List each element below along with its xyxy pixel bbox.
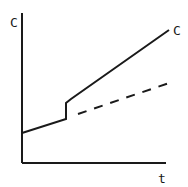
curve-label: C [173,23,181,38]
y-axis-label: C [10,15,18,30]
x-axis-label: t [158,171,166,186]
dashed-curve [78,82,172,114]
chart-canvas: C C t [0,0,188,187]
solid-curve [22,30,169,133]
